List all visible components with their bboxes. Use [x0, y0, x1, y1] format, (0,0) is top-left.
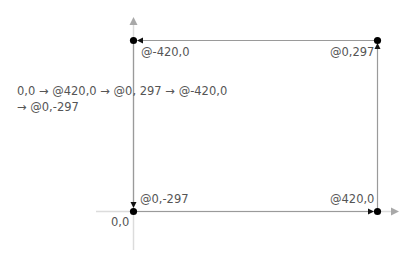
arrow-right-icon [368, 209, 374, 215]
label-p3: @-420,0 [141, 45, 190, 59]
diagram-canvas [0, 0, 417, 256]
description-line-2: → @0,-297 [17, 99, 227, 115]
label-p1: @420,0 [330, 192, 374, 206]
x-axis-arrow-icon [391, 208, 399, 216]
point-p2 [374, 37, 381, 44]
arrow-down-icon [131, 202, 137, 208]
y-axis-arrow-icon [130, 17, 138, 25]
label-origin: 0,0 [111, 215, 129, 229]
origin-point [130, 208, 137, 215]
path [133, 40, 378, 212]
description-line-1: 0,0 → @420,0 → @0, 297 → @-420,0 [17, 83, 227, 99]
label-p2: @0,297 [330, 45, 374, 59]
point-p1 [374, 208, 381, 215]
arrow-left-icon [137, 38, 143, 44]
point-p3 [130, 37, 137, 44]
label-p4: @0,-297 [140, 192, 189, 206]
path-description: 0,0 → @420,0 → @0, 297 → @-420,0 → @0,-2… [17, 83, 227, 115]
